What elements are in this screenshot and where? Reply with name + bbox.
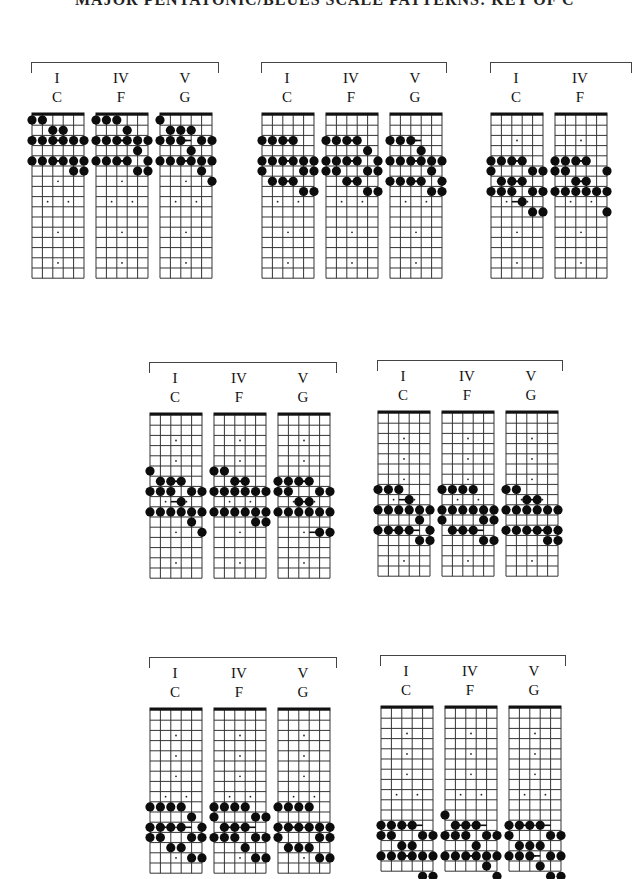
scale-note-dot: [220, 802, 229, 811]
scale-note-dot: [187, 126, 196, 135]
scale-note-dot: [166, 487, 175, 496]
scale-note-dot: [440, 831, 449, 840]
scale-note-dot: [156, 823, 165, 832]
scale-note-dot: [133, 136, 142, 145]
scale-note-dot: [353, 136, 362, 145]
scale-note-dot: [437, 177, 446, 186]
scale-note-dot: [427, 187, 436, 196]
scale-note-dot: [325, 487, 334, 496]
scale-note-dot: [176, 126, 185, 135]
scale-note-dot: [197, 507, 206, 516]
scale-note-dot: [353, 156, 362, 165]
scale-note-dot: [550, 156, 559, 165]
scale-note-dot: [448, 505, 457, 514]
scale-note-dot: [294, 823, 303, 832]
chord-name-label: C: [375, 387, 431, 404]
scale-note-dot: [166, 843, 175, 852]
scale-note-dot: [220, 823, 229, 832]
scale-note-dot: [284, 487, 293, 496]
chord-name-label: F: [323, 89, 379, 106]
fretboard-diagram: [31, 114, 85, 279]
chord-name-label: C: [259, 89, 315, 106]
scale-note-dot: [251, 507, 260, 516]
scale-note-dot: [553, 505, 562, 514]
scale-note-dot: [418, 851, 427, 860]
scale-note-dot: [102, 136, 111, 145]
scale-note-dot: [230, 507, 239, 516]
scale-note-dot: [538, 166, 547, 175]
scale-note-dot: [187, 812, 196, 821]
scale-note-dot: [177, 497, 186, 506]
scale-note-dot: [261, 812, 270, 821]
scale-note-dot: [538, 187, 547, 196]
chord-name-label: F: [442, 682, 498, 699]
scale-note-dot: [241, 507, 250, 516]
scale-note-dot: [469, 526, 478, 535]
scale-note-dot: [241, 487, 250, 496]
scale-note-dot: [428, 872, 437, 879]
scale-note-dot: [507, 156, 516, 165]
chord-name-label: F: [93, 89, 149, 106]
chord-name-label: F: [211, 684, 267, 701]
scale-note-dot: [376, 851, 385, 860]
scale-note-dot: [69, 156, 78, 165]
scale-note-dot: [373, 505, 382, 514]
scale-note-dot: [385, 136, 394, 145]
scale-note-dot: [384, 505, 393, 514]
fretboard-diagram: [441, 412, 495, 577]
scale-note-dot: [397, 841, 406, 850]
scale-note-dot: [309, 156, 318, 165]
scale-note-dot: [207, 136, 216, 145]
chord-degree-label: V: [503, 368, 559, 385]
scale-note-dot: [207, 156, 216, 165]
scale-note-dot: [556, 872, 565, 879]
scale-note-dot: [79, 156, 88, 165]
scale-note-dot: [166, 126, 175, 135]
scale-note-dot: [518, 197, 527, 206]
scale-note-dot: [602, 166, 611, 175]
scale-note-dot: [273, 487, 282, 496]
scale-note-dot: [197, 833, 206, 842]
scale-note-dot: [528, 207, 537, 216]
scale-note-dot: [268, 136, 277, 145]
scale-note-dot: [486, 166, 495, 175]
scale-note-dot: [123, 126, 132, 135]
scale-note-dot: [497, 177, 506, 186]
chord-name-label: G: [157, 89, 213, 106]
scale-note-dot: [209, 507, 218, 516]
scale-note-dot: [187, 517, 196, 526]
fretboard-diagram: [261, 114, 315, 279]
chord-degree-label: IV: [93, 70, 149, 87]
scale-note-dot: [461, 821, 470, 830]
chord-degree-label: I: [29, 70, 85, 87]
scale-note-dot: [451, 831, 460, 840]
scale-note-dot: [315, 833, 324, 842]
scale-note-dot: [91, 156, 100, 165]
chord-degree-label: V: [387, 70, 443, 87]
scale-note-dot: [543, 505, 552, 514]
scale-note-dot: [451, 851, 460, 860]
fretboard-diagram: [213, 709, 267, 874]
scale-note-dot: [143, 156, 152, 165]
scale-note-dot: [528, 187, 537, 196]
chord-name-label: G: [275, 684, 331, 701]
scale-note-dot: [209, 802, 218, 811]
scale-note-dot: [27, 136, 36, 145]
scale-note-dot: [209, 812, 218, 821]
scale-note-dot: [525, 841, 534, 850]
scale-note-dot: [387, 851, 396, 860]
fretboard-diagram: [325, 114, 379, 279]
scale-note-dot: [486, 156, 495, 165]
scale-note-dot: [305, 823, 314, 832]
scale-note-dot: [325, 823, 334, 832]
scale-note-dot: [79, 166, 88, 175]
scale-note-dot: [353, 177, 362, 186]
scale-note-dot: [278, 156, 287, 165]
scale-note-dot: [197, 166, 206, 175]
scale-note-dot: [479, 515, 488, 524]
chord-name-label: C: [488, 89, 544, 106]
scale-note-dot: [59, 156, 68, 165]
scale-note-dot: [427, 156, 436, 165]
fretboard-diagram: [377, 412, 431, 577]
scale-note-dot: [177, 507, 186, 516]
